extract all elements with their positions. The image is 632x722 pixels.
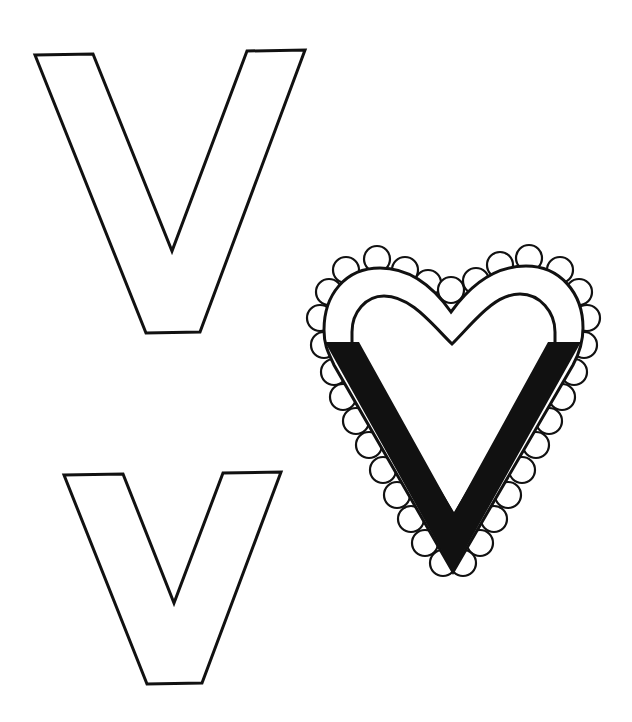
lowercase-v-letter (64, 472, 281, 684)
coloring-page-canvas (0, 0, 632, 722)
uppercase-v-letter (35, 50, 305, 333)
valentine-heart-illustration (307, 245, 600, 576)
